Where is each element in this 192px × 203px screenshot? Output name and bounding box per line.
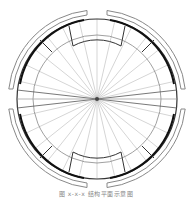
- radial-line: [97, 99, 147, 162]
- radial-line: [97, 99, 175, 117]
- radial-line: [47, 37, 97, 100]
- radial-line: [97, 49, 160, 99]
- radial-line: [35, 49, 98, 99]
- radial-line: [97, 81, 175, 99]
- radial-line: [19, 81, 97, 99]
- radial-line: [47, 99, 97, 162]
- radial-line: [79, 21, 97, 99]
- radial-line: [97, 21, 115, 99]
- radial-line: [97, 99, 115, 177]
- radial-line: [97, 99, 160, 149]
- radial-line: [79, 99, 97, 177]
- center-point: [95, 97, 99, 101]
- radial-line: [97, 37, 147, 100]
- figure-caption: 图 x-x-x 结构平面示意图: [0, 189, 192, 198]
- radial-line: [35, 99, 98, 149]
- radial-line: [19, 99, 97, 117]
- circular-plan-diagram: [0, 0, 192, 203]
